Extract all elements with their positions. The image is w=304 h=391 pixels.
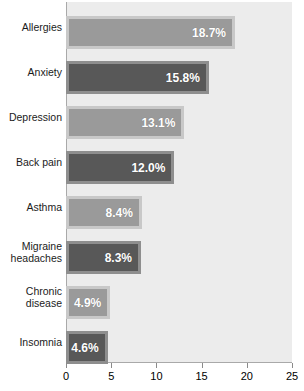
bar-value-label: 18.7% [192, 26, 232, 40]
bar-asthma[interactable]: 8.4% [66, 196, 142, 229]
category-label-insomnia: Insomnia [0, 337, 62, 349]
x-axis-tick-label: 5 [96, 370, 126, 382]
x-axis-tick-label: 25 [277, 370, 304, 382]
x-axis-tick-label: 10 [141, 370, 171, 382]
x-axis-tick [66, 363, 67, 368]
category-label-depression: Depression [0, 112, 62, 124]
chart-screenshot: Allergies Anxiety Depression Back pain A… [0, 0, 304, 391]
category-label-anxiety: Anxiety [0, 67, 62, 79]
category-label-allergies: Allergies [0, 22, 62, 34]
x-axis-tick [247, 363, 248, 368]
x-axis-tick [156, 363, 157, 368]
category-label-chronic-disease: Chronic disease [0, 286, 62, 309]
category-label-asthma: Asthma [0, 202, 62, 214]
x-axis-tick-label: 20 [232, 370, 262, 382]
x-axis-tick [111, 363, 112, 368]
bar-allergies[interactable]: 18.7% [66, 16, 235, 49]
bar-value-label: 8.4% [106, 206, 139, 220]
x-axis-tick [292, 363, 293, 368]
x-axis-tick [202, 363, 203, 368]
category-label-migraine-headaches: Migraine headaches [0, 241, 62, 264]
bar-value-label: 15.8% [166, 71, 206, 85]
x-axis-tick-label: 0 [51, 370, 81, 382]
bar-anxiety[interactable]: 15.8% [66, 61, 209, 94]
bar-insomnia[interactable]: 4.6% [66, 331, 108, 364]
bar-value-label: 4.9% [74, 296, 107, 310]
bar-chronic-disease[interactable]: 4.9% [66, 286, 110, 319]
category-label-back-pain: Back pain [0, 157, 62, 169]
bar-value-label: 4.6% [71, 341, 104, 355]
bar-back-pain[interactable]: 12.0% [66, 151, 174, 184]
bar-value-label: 8.3% [105, 251, 138, 265]
bar-value-label: 12.0% [131, 161, 171, 175]
x-axis-tick-label: 15 [187, 370, 217, 382]
bar-value-label: 13.1% [141, 116, 181, 130]
bar-depression[interactable]: 13.1% [66, 106, 184, 139]
bar-migraine-headaches[interactable]: 8.3% [66, 241, 141, 274]
